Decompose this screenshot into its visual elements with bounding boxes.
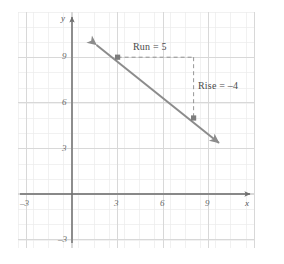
ytick-label-9: 9	[62, 52, 67, 61]
rise-annotation-label: Rise = –4	[198, 81, 238, 91]
x-axis-label: x	[245, 199, 249, 208]
xtick-label-9: 9	[205, 199, 210, 208]
coordinate-plane	[0, 0, 284, 264]
ytick-label-6: 6	[62, 98, 67, 107]
y-axis-label: y	[61, 14, 65, 23]
point-marker-8-5	[191, 115, 196, 120]
ytick-label-3: 3	[62, 144, 67, 153]
graph-figure: –3 3 6 9 9 6 3 –3 y x Run = 5 Rise = –4	[0, 0, 284, 264]
xtick-label-3: 3	[114, 199, 119, 208]
line-point-markers	[115, 55, 196, 121]
point-marker-3-9	[115, 55, 120, 60]
xtick-label-6: 6	[160, 199, 165, 208]
run-annotation-label: Run = 5	[133, 42, 167, 52]
ytick-label-neg3: –3	[58, 235, 67, 244]
xtick-label-neg3: –3	[20, 199, 29, 208]
annotation-guides	[118, 57, 194, 118]
